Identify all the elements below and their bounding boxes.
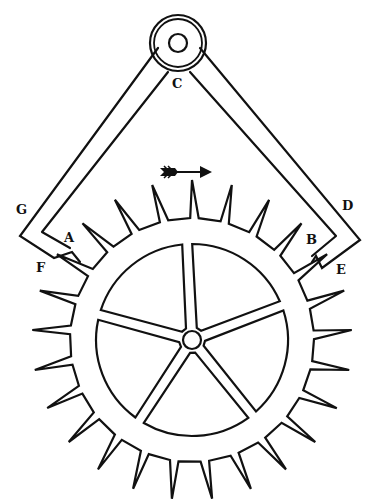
- label-e: E: [336, 262, 346, 277]
- label-f: F: [36, 260, 46, 275]
- diagram-canvas: C G A F D B E: [0, 0, 376, 499]
- pivot-hub: [169, 34, 187, 52]
- rotation-arrow-icon: [160, 166, 212, 178]
- label-b: B: [306, 232, 317, 247]
- right-arm: [190, 48, 360, 268]
- wheel-hub: [183, 331, 201, 349]
- wheel-sector: [101, 245, 186, 332]
- left-arm: [20, 48, 168, 262]
- label-d: D: [342, 198, 353, 213]
- pivot-ring: [154, 19, 202, 67]
- pivot-outer: [150, 15, 206, 71]
- escapement-diagram: C G A F D B E: [0, 0, 376, 499]
- wheel-rim: [96, 244, 288, 436]
- label-a: A: [63, 230, 75, 245]
- wheel-sector: [144, 353, 249, 436]
- escape-wheel: [32, 180, 351, 499]
- label-g: G: [16, 202, 27, 217]
- wheel-sector: [96, 320, 181, 418]
- wheel-teeth: [32, 180, 351, 499]
- label-c: C: [172, 76, 182, 91]
